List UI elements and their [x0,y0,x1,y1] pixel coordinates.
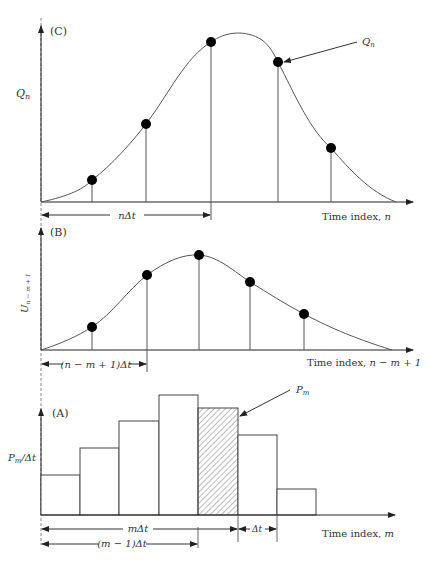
panel-c-dim-label: nΔt [118,210,137,221]
panel-b-dim-label: (n − m + 1)Δt [61,359,133,370]
dim-dt-label: Δt [251,524,262,534]
panel-c-label: (C) [50,25,67,38]
panel-c-x-label: Time index, n [322,211,391,222]
panel-a-label: (A) [52,407,69,420]
bar-6 [238,435,277,515]
panel-a-bars [41,395,316,515]
panel-b-label: (B) [50,226,67,239]
bar-1 [41,475,80,515]
panel-a-callout-label: Pm [295,384,310,397]
bar-5-hatched [198,408,238,515]
bar-3 [119,421,159,515]
panel-c-stems [92,42,331,202]
panel-a-y-label: Pm/Δt [7,452,37,465]
panel-c-callout-label: Qn [362,36,375,49]
panel-a-callout-arrow [240,390,290,416]
panel-a-x-label: Time index, m [322,528,394,539]
panel-c: (C) Qn Qn Time index, n nΔt [16,25,413,222]
panel-b-stems [92,255,304,350]
panel-c-y-label: Qn [16,87,30,101]
panel-b-points [87,250,309,332]
bar-2 [80,448,119,515]
bar-7 [277,489,316,515]
panel-b-x-label: Time index, n − m + 1 [307,357,421,368]
dim-m1-label: (m − 1)Δt [97,538,148,549]
panel-a: (A) Pm/Δt Pm Time index, m mΔt (m − 1)Δt… [7,384,395,549]
dim-m-label: mΔt [128,523,150,534]
panel-b: (B) Un − m + 1 Time index, n − m + 1 (n … [19,226,421,372]
panel-b-curve [41,255,392,350]
panel-c-callout-arrow [284,42,357,62]
convolution-diagram: (C) Qn Qn Time index, n nΔt (B) Un − m + [0,0,429,564]
panel-b-y-label: Un − m + 1 [19,274,31,314]
bar-4 [159,395,198,515]
